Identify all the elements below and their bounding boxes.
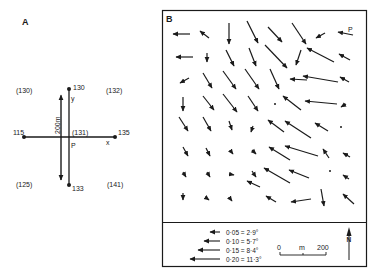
point-top-value: 130 [73,84,85,91]
vector-arrow [343,194,354,204]
vector-arrow [203,117,211,131]
point-bottom-value: 133 [72,185,84,192]
vector-arrow [206,148,210,156]
vector-arrow [223,71,236,89]
panel-b-frame [163,11,367,267]
x-axis-label: x [106,139,110,146]
legend-value: 0·20 = 11·3° [226,256,262,263]
vector-arrow [264,168,290,183]
y-axis-label: y [71,95,75,103]
vector-arrow [292,23,306,44]
point-bottom [67,183,71,187]
vector-arrow [252,171,256,177]
legend-value: 0·05 = 2·9° [226,229,259,236]
vector-arrow [285,146,318,156]
vector-arrow [339,54,350,60]
vector-arrow [283,96,301,110]
panel-a-label: A [22,17,29,27]
legend: 0·05 = 2·9° 0·10 = 5·7° 0·15 = 8·4° 0·20… [190,229,262,263]
vector-arrow [316,33,325,38]
scale-start: 0 [277,244,281,251]
vector-arrow [321,189,324,206]
north-label: N [347,236,352,243]
vector-arrow [305,101,337,104]
center-value: (131) [72,129,88,137]
vector-arrow [343,153,350,157]
zero-vector-dot [274,103,276,105]
vector-arrow [290,79,307,80]
vector-arrow [248,96,258,111]
vector-arrow [229,197,232,201]
corner-top-left: (130) [16,87,32,95]
vector-arrow [229,121,232,130]
vector-arrow [252,150,256,154]
point-left-value: 115 [13,129,24,136]
vector-arrow [303,76,338,82]
vector-arrow [200,31,209,38]
legend-value: 0·15 = 8·4° [226,247,259,254]
vector-arrow [183,147,188,156]
vector-arrow [341,104,346,107]
point-right [113,135,117,139]
vector-arrow [251,126,253,132]
vector-arrow [323,149,329,158]
scale-label: 200m [54,116,61,134]
vector-arrow [296,50,301,65]
point-top [67,87,71,91]
vector-arrow [180,78,189,83]
zero-vector-dot [340,126,342,128]
corner-bottom-right: (141) [107,181,123,189]
vector-arrow [266,196,276,202]
legend-value: 0·10 = 5·7° [226,238,259,245]
vector-arrow [268,120,284,132]
north-arrow: N [347,227,352,260]
panel-a: A 115 135 130 133 y x (131) P 200m (130)… [13,17,130,192]
vector-arrow [247,181,260,187]
vector-arrow [245,69,259,89]
vector-arrow [307,48,334,62]
vector-arrow [265,45,287,68]
zero-vectors [274,103,342,172]
vector-arrow [315,123,328,131]
vector-arrow [285,121,311,138]
center-label: P [71,142,76,149]
figure: A 115 135 130 133 y x (131) P 200m (130)… [0,0,378,277]
panel-b-label: B [166,14,173,24]
vector-arrow [247,21,258,43]
corner-top-right: (132) [106,87,122,95]
vector-field [173,21,354,206]
point-right-value: 135 [118,129,130,136]
vector-arrow [230,150,233,154]
vector-arrow [340,77,349,82]
scale-end: 200 [317,244,329,251]
vector-arrow [291,199,311,202]
vector-arrow [343,175,349,179]
vector-arrow [289,170,309,178]
north-arrow-icon [347,227,352,236]
scale-unit: m [299,244,305,251]
vector-arrow [183,172,186,177]
vector-arrow [270,69,279,89]
vector-arrow [249,48,256,66]
vector-arrow [203,96,214,110]
scale-bar: 0 m 200 [277,244,329,255]
corner-bottom-left: (125) [16,181,32,189]
vector-arrow [269,147,290,160]
vector-arrow [203,73,212,88]
point-p-label: P [348,26,353,33]
vector-arrow [226,50,234,66]
vector-arrow [223,94,237,112]
vector-arrow [205,197,209,200]
vector-arrow [229,174,234,175]
zero-vector-dot [329,170,331,172]
panel-b: B P 0·05 = 2·9° 0·10 = 5·7° 0·15 = 8·4° … [163,11,367,267]
vector-arrow [268,27,282,42]
vector-arrow [179,117,188,131]
vector-arrow [207,172,210,177]
